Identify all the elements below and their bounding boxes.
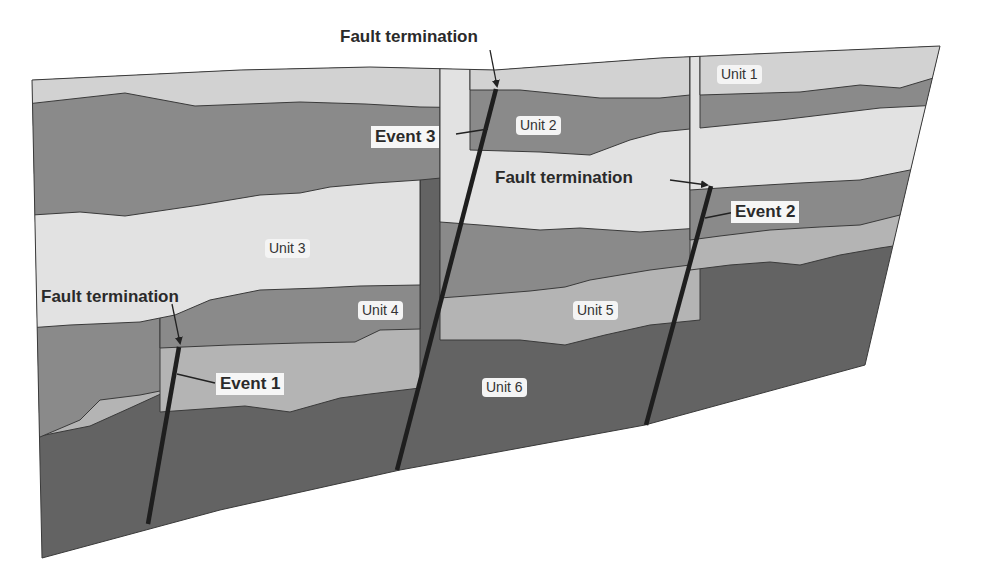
unit1-label: Unit 1 [717,65,762,84]
unit6-label: Unit 6 [482,378,527,397]
unit4-label: Unit 4 [358,301,403,320]
fault-termination-label-2: Fault termination [495,168,633,188]
unit1-layer-left [0,0,495,108]
event3-label: Event 3 [371,126,439,148]
block-d [690,0,960,270]
event2-label: Event 2 [731,201,799,223]
event1-label: Event 1 [216,373,284,395]
unit3-label: Unit 3 [265,239,310,258]
fault-termination-label-3: Fault termination [340,27,478,47]
unit2-label: Unit 2 [516,116,561,135]
unit5-label: Unit 5 [573,301,618,320]
fault-termination-label-1: Fault termination [41,287,179,307]
